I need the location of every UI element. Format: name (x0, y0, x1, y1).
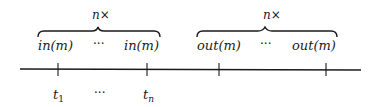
output-overbrace (197, 27, 337, 37)
input-item-last: in(m) (124, 38, 159, 53)
diagram-svg: n× in(m) ··· in(m) n× out(m) ··· out(m) … (0, 0, 378, 107)
input-overbrace (38, 27, 160, 37)
input-item-first: in(m) (38, 38, 73, 53)
label-tn: tn (143, 87, 154, 104)
output-multiplier-label: n× (263, 8, 281, 22)
time-ellipsis: ··· (94, 86, 105, 100)
timeline-diagram: n× in(m) ··· in(m) n× out(m) ··· out(m) … (0, 0, 378, 107)
timeline-axis (20, 69, 361, 70)
output-item-last: out(m) (292, 38, 336, 53)
input-multiplier-label: n× (92, 8, 110, 22)
label-t1: t1 (53, 87, 64, 104)
input-ellipsis: ··· (93, 37, 104, 51)
output-ellipsis: ··· (260, 37, 271, 51)
output-item-first: out(m) (197, 38, 241, 53)
